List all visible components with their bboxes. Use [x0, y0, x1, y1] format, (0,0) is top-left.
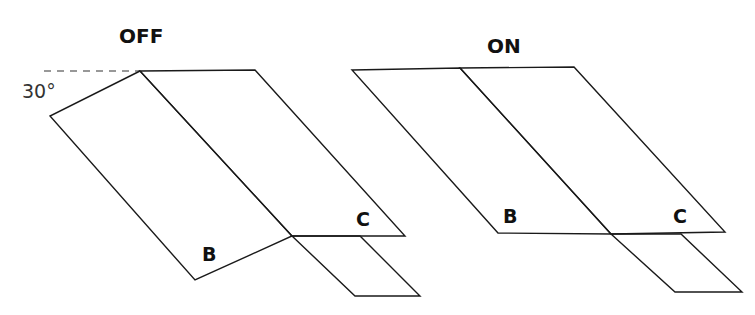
off-label-b: B	[202, 243, 216, 265]
on-diagram	[352, 67, 742, 292]
off-diagram	[44, 70, 420, 296]
lower-flap	[292, 236, 420, 296]
diagram-lines	[0, 0, 755, 315]
on-label-c: C	[673, 205, 687, 227]
lower-flap	[611, 234, 742, 292]
on-label-b: B	[503, 205, 517, 227]
flap-b	[50, 71, 292, 280]
off-title: OFF	[119, 24, 163, 48]
diagram: OFF 30° B C ON B C	[0, 0, 755, 315]
off-label-c: C	[356, 208, 370, 230]
on-title: ON	[487, 34, 521, 58]
angle-label: 30°	[22, 80, 56, 102]
panel-b	[352, 68, 611, 234]
